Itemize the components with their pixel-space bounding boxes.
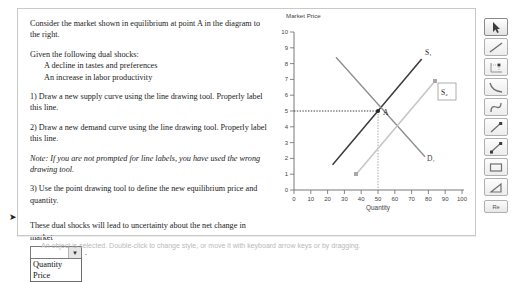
x-axis-label: Quantity bbox=[366, 204, 391, 212]
svg-text:80: 80 bbox=[425, 196, 432, 202]
svg-text:3: 3 bbox=[285, 140, 289, 146]
tool-curve-concave[interactable] bbox=[484, 78, 508, 96]
svg-text:10: 10 bbox=[281, 29, 288, 35]
triangle-icon bbox=[488, 181, 504, 194]
s2-handle-start[interactable] bbox=[354, 172, 358, 176]
svg-text:70: 70 bbox=[408, 196, 415, 202]
segment-one-point-icon bbox=[488, 121, 504, 134]
svg-text:2: 2 bbox=[285, 155, 289, 161]
market-chart[interactable]: Market Price 01 23 45 67 bbox=[272, 10, 472, 222]
svg-text:6: 6 bbox=[285, 92, 289, 98]
point-label-a: A bbox=[383, 108, 389, 117]
s2-handle-end[interactable] bbox=[433, 79, 437, 83]
curve-label-d1: D₁ bbox=[427, 154, 435, 163]
tool-line[interactable] bbox=[484, 38, 508, 56]
chart-plot-area: 01 23 45 67 89 10 010 2030 bbox=[281, 29, 467, 212]
equilibrium-point-a[interactable] bbox=[376, 109, 380, 113]
question-note: Note: If you are not prompted for line l… bbox=[30, 153, 270, 176]
question-text: Consider the market shown in equilibrium… bbox=[30, 18, 270, 259]
pointer-arrow-icon: ➤ bbox=[9, 213, 17, 222]
chart-svg[interactable]: 01 23 45 67 89 10 010 2030 bbox=[272, 10, 472, 222]
shock-item-2: An increase in labor productivity bbox=[30, 72, 270, 83]
dropdown-option-price[interactable]: Price bbox=[31, 270, 81, 281]
question-step-3: 3) Use the point drawing tool to define … bbox=[30, 183, 270, 206]
svg-text:60: 60 bbox=[391, 196, 398, 202]
question-step-1: 1) Draw a new supply curve using the lin… bbox=[30, 91, 270, 114]
tool-triangle[interactable] bbox=[484, 178, 508, 196]
line-icon bbox=[488, 41, 504, 54]
svg-text:30: 30 bbox=[341, 196, 348, 202]
svg-text:7: 7 bbox=[285, 76, 289, 82]
svg-text:100: 100 bbox=[457, 196, 468, 202]
drawing-toolbar[interactable]: Re bbox=[481, 18, 511, 213]
cursor-arrow-icon bbox=[489, 21, 503, 34]
svg-text:10: 10 bbox=[307, 196, 314, 202]
svg-text:9: 9 bbox=[285, 45, 289, 51]
curve-s2 bbox=[356, 81, 435, 174]
question-step-2: 2) Draw a new demand curve using the lin… bbox=[30, 122, 270, 145]
svg-text:20: 20 bbox=[324, 196, 331, 202]
svg-text:1: 1 bbox=[285, 171, 289, 177]
tool-axis-point[interactable] bbox=[484, 58, 508, 76]
tool-curve-s[interactable] bbox=[484, 98, 508, 116]
tool-select-arrow[interactable] bbox=[484, 18, 508, 36]
x-axis-ticks bbox=[294, 190, 462, 194]
shocks-header: Given the following dual shocks: bbox=[30, 49, 270, 60]
plot-point-icon bbox=[488, 61, 504, 74]
tool-segment-two-point[interactable] bbox=[484, 138, 508, 156]
curve-label-s2: S₂ bbox=[441, 88, 448, 97]
y-axis-ticks bbox=[290, 32, 294, 190]
tool-rectangle[interactable] bbox=[484, 158, 508, 176]
svg-text:90: 90 bbox=[442, 196, 449, 202]
reset-button[interactable]: Re bbox=[484, 200, 508, 213]
svg-text:50: 50 bbox=[375, 196, 382, 202]
svg-text:0: 0 bbox=[285, 187, 289, 193]
dropdown-option-quantity[interactable]: Quantity bbox=[31, 259, 81, 270]
y-axis-tick-labels: 01 23 45 67 89 10 bbox=[281, 29, 288, 193]
question-intro: Consider the market shown in equilibrium… bbox=[30, 18, 270, 41]
svg-text:4: 4 bbox=[285, 124, 289, 130]
segment-two-point-icon bbox=[488, 141, 504, 154]
x-axis-tick-labels: 010 2030 4050 6070 8090 100 bbox=[292, 196, 467, 202]
curve-label-s1: S₁ bbox=[425, 48, 432, 57]
dropdown-options-list[interactable]: Quantity Price bbox=[30, 259, 82, 282]
concave-curve-icon bbox=[488, 81, 504, 94]
svg-text:8: 8 bbox=[285, 61, 289, 67]
status-bar: An object is selected. Double-click to c… bbox=[17, 236, 476, 258]
svg-text:40: 40 bbox=[358, 196, 365, 202]
shock-item-1: A decline in tastes and preferences bbox=[30, 60, 270, 71]
status-message: An object is selected. Double-click to c… bbox=[41, 242, 360, 249]
tool-segment-point[interactable] bbox=[484, 118, 508, 136]
svg-text:5: 5 bbox=[285, 108, 289, 114]
s-curve-icon bbox=[488, 101, 504, 114]
curve-d1 bbox=[336, 57, 425, 157]
svg-text:0: 0 bbox=[292, 196, 296, 202]
rectangle-icon bbox=[488, 161, 504, 174]
